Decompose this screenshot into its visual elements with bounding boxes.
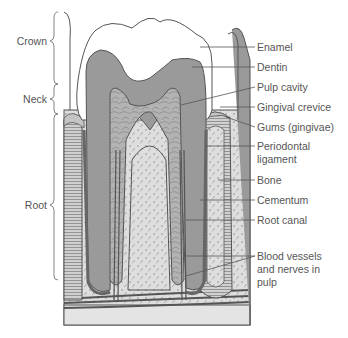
crown-brace <box>50 12 58 84</box>
label-pulp-cavity: Pulp cavity <box>257 81 308 94</box>
label-neck: Neck <box>0 93 47 106</box>
label-blood-vessels: Blood vessels and nerves in pulp <box>257 250 322 289</box>
root-brace <box>50 114 58 280</box>
label-bone: Bone <box>257 174 282 187</box>
label-crown: Crown <box>0 35 47 48</box>
label-root: Root <box>0 199 47 212</box>
label-gums: Gums (gingivae) <box>257 121 334 134</box>
tooth-diagram: Crown Neck Root Enamel Dentin Pulp cavit… <box>0 0 348 338</box>
label-cementum: Cementum <box>257 194 308 207</box>
label-dentin: Dentin <box>257 61 287 74</box>
label-gingival-crevice: Gingival crevice <box>257 101 331 114</box>
label-root-canal: Root canal <box>257 214 307 227</box>
neck-brace <box>50 84 58 114</box>
label-enamel: Enamel <box>257 41 293 54</box>
label-periodontal-ligament: Periodontal ligament <box>257 140 310 166</box>
